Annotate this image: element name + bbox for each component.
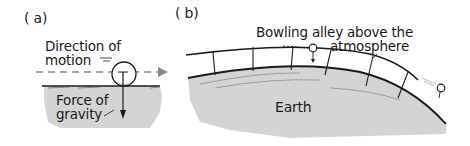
direction-label-line2: motion — [45, 53, 91, 67]
force-label-line2: gravity — [56, 107, 102, 121]
panel-a-label: ( a) — [24, 11, 47, 25]
alley-label-line1: Bowling alley above the — [256, 25, 413, 39]
force-label-line1: Force of — [56, 93, 108, 107]
direction-label-line1: Direction of — [45, 39, 121, 53]
diagram-canvas — [0, 0, 470, 146]
panel-b-earth — [188, 66, 446, 138]
earth-label: Earth — [275, 100, 312, 114]
alley-label-line2: atmosphere — [330, 39, 409, 53]
bowling-ball-falling — [422, 78, 445, 98]
panel-b-label: ( b) — [175, 6, 198, 20]
direction-arrow — [36, 67, 168, 77]
